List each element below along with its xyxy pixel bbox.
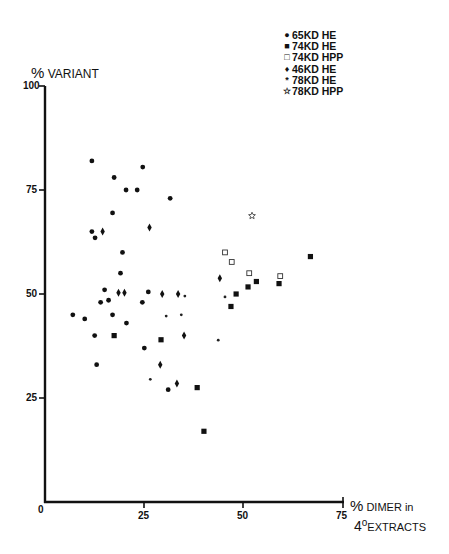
data-point-filled-square — [276, 281, 281, 286]
data-point-filled-circle — [140, 300, 145, 305]
y-axis-label: % VARIANT — [31, 64, 99, 81]
data-point-filled-circle — [110, 210, 115, 215]
data-point-filled-circle — [106, 298, 111, 303]
data-point-filled-circle — [140, 165, 145, 170]
data-point-filled-diamond — [147, 223, 151, 231]
data-point-open-square — [229, 260, 234, 265]
data-point-filled-square — [158, 337, 163, 342]
axes — [39, 86, 344, 508]
data-point-open-square — [223, 250, 228, 255]
data-points — [70, 158, 313, 433]
open-star-icon: ☆ — [282, 86, 292, 97]
data-point-filled-diamond — [122, 289, 126, 297]
filled-circle-icon: ● — [282, 30, 292, 41]
data-point-filled-square — [201, 429, 206, 434]
data-point-filled-circle — [89, 158, 94, 163]
x-tick-0: 0 — [38, 504, 44, 515]
x-tick-25: 25 — [138, 510, 149, 521]
data-point-filled-circle — [135, 188, 140, 193]
data-point-filled-circle — [120, 250, 125, 255]
data-point-filled-diamond — [175, 379, 179, 387]
data-point-asterisk — [149, 378, 152, 381]
data-point-filled-circle — [89, 229, 94, 234]
data-point-filled-circle — [112, 175, 117, 180]
x-axis-label: % DIMER in 4oEXTRACTS — [350, 498, 426, 535]
data-point-filled-circle — [118, 271, 123, 276]
data-point-filled-circle — [102, 287, 107, 292]
data-point-filled-square — [195, 385, 200, 390]
data-point-filled-circle — [142, 346, 147, 351]
filled-square-icon: ■ — [282, 41, 292, 52]
data-point-filled-circle — [146, 290, 151, 295]
data-point-filled-circle — [110, 312, 115, 317]
scatter-plot — [0, 0, 449, 554]
open-square-icon: □ — [282, 52, 292, 63]
data-point-filled-square — [308, 254, 313, 259]
data-point-filled-diamond — [176, 290, 180, 298]
data-point-open-square — [247, 271, 252, 276]
legend: ●65KD HE ■74KD HE □74KD HPP ♦46KD HE *78… — [282, 30, 343, 97]
data-point-filled-circle — [93, 235, 98, 240]
data-point-filled-square — [112, 333, 117, 338]
data-point-filled-circle — [124, 321, 129, 326]
y-tick-50: 50 — [26, 288, 37, 299]
data-point-asterisk — [224, 296, 227, 299]
data-point-filled-diamond — [160, 290, 164, 298]
data-point-filled-circle — [166, 387, 171, 392]
data-point-filled-square — [245, 284, 250, 289]
data-point-asterisk — [183, 295, 186, 298]
legend-item-78kd-hpp: ☆78KD HPP — [282, 86, 343, 97]
x-tick-50: 50 — [237, 510, 248, 521]
data-point-filled-circle — [92, 333, 97, 338]
legend-item-74kd-hpp: □74KD HPP — [282, 52, 343, 63]
x-tick-75: 75 — [336, 510, 347, 521]
data-point-filled-diamond — [100, 228, 104, 236]
data-point-filled-diamond — [158, 361, 162, 369]
data-point-filled-circle — [168, 196, 173, 201]
data-point-filled-square — [254, 279, 259, 284]
data-point-open-square — [278, 274, 283, 279]
data-point-asterisk — [165, 315, 168, 318]
data-point-asterisk — [217, 339, 220, 342]
data-point-filled-circle — [98, 300, 103, 305]
y-tick-75: 75 — [26, 184, 37, 195]
data-point-filled-circle — [124, 188, 129, 193]
data-point-filled-square — [228, 304, 233, 309]
data-point-filled-diamond — [182, 332, 186, 340]
data-point-filled-square — [234, 291, 239, 296]
data-point-asterisk — [180, 313, 183, 316]
data-point-filled-circle — [82, 317, 87, 322]
data-point-filled-circle — [94, 362, 99, 367]
y-tick-25: 25 — [26, 392, 37, 403]
data-point-filled-diamond — [218, 274, 222, 282]
asterisk-icon: * — [282, 75, 292, 86]
data-point-filled-circle — [70, 312, 75, 317]
data-point-open-star — [249, 212, 256, 219]
data-point-filled-diamond — [116, 289, 120, 297]
diamond-icon: ♦ — [282, 64, 292, 75]
y-tick-100: 100 — [23, 80, 40, 91]
